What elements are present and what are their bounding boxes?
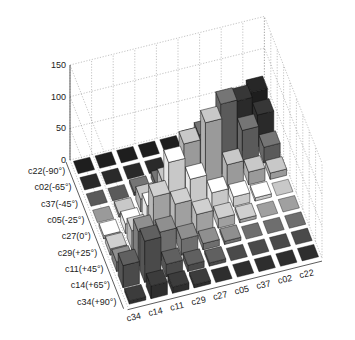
- row-tick-label: c05(-25°): [47, 215, 84, 225]
- floor-cell: [95, 152, 116, 169]
- bar: [235, 203, 256, 223]
- floor-cell: [257, 201, 278, 218]
- floor-cell: [93, 206, 114, 223]
- row-tick-label: c14(+65°): [71, 280, 110, 290]
- col-tick-label: c34: [126, 311, 142, 324]
- bar: [118, 249, 139, 288]
- bar: [183, 249, 204, 272]
- col-tick-label: c27: [212, 289, 228, 302]
- row-tick-label: c27(0°): [62, 231, 91, 241]
- floor-cell: [226, 244, 247, 260]
- bar: [213, 202, 234, 228]
- row-tick-label: c29(+25°): [58, 248, 97, 258]
- col-tick-label: c29: [190, 294, 206, 307]
- floor-cell: [117, 146, 138, 163]
- floor-cell: [269, 234, 290, 251]
- floor-cell: [86, 190, 107, 207]
- z-tick-label: 50: [56, 123, 66, 133]
- col-tick-label: c02: [277, 273, 293, 286]
- row-tick-label: c11(+45°): [65, 264, 104, 274]
- row-tick-label: c37(-45°): [41, 199, 78, 209]
- floor-cell: [285, 212, 306, 229]
- col-tick-label: c37: [255, 278, 271, 291]
- col-tick-label: c05: [234, 284, 250, 297]
- bar: [146, 270, 167, 299]
- bar: [250, 181, 271, 201]
- floor-cell: [73, 157, 94, 174]
- floor-cell: [123, 163, 144, 180]
- bar: [244, 156, 265, 185]
- col-tick-label: c11: [169, 300, 185, 313]
- z-tick-label: 150: [51, 60, 66, 70]
- z-tick-label: 100: [51, 92, 66, 102]
- row-tick-label: c34(+90°): [77, 297, 116, 307]
- floor-cell: [241, 223, 262, 240]
- z-tick-label: 0: [61, 155, 66, 165]
- floor-cell: [254, 255, 275, 272]
- floor-cell: [80, 174, 101, 191]
- floor-cell: [211, 266, 232, 283]
- bar: [229, 181, 250, 207]
- col-tick-label: c14: [147, 305, 163, 318]
- floor-cell: [297, 244, 318, 261]
- floor-cell: [108, 184, 129, 201]
- floor-cell: [291, 228, 312, 245]
- row-tick-label: c22(-90°): [28, 166, 65, 176]
- bar: [125, 284, 146, 304]
- floor-cell: [233, 261, 254, 278]
- bar: [205, 247, 226, 267]
- floor-cell: [278, 196, 299, 213]
- floor-cell: [248, 239, 269, 256]
- floor-cell: [138, 141, 159, 158]
- floor-cell: [276, 250, 297, 266]
- bar: [220, 225, 241, 245]
- bar: [198, 227, 219, 250]
- bar: [189, 268, 210, 288]
- bar3d-chart: 050100150c22(-90°)c02(-65°)c37(-45°)c05(…: [0, 0, 355, 340]
- col-tick-label: c22: [298, 267, 314, 280]
- floor-cell: [263, 217, 284, 234]
- floor-cell: [101, 168, 122, 185]
- floor-cell: [272, 179, 293, 196]
- bar: [168, 271, 189, 294]
- row-tick-label: c02(-65°): [34, 182, 71, 192]
